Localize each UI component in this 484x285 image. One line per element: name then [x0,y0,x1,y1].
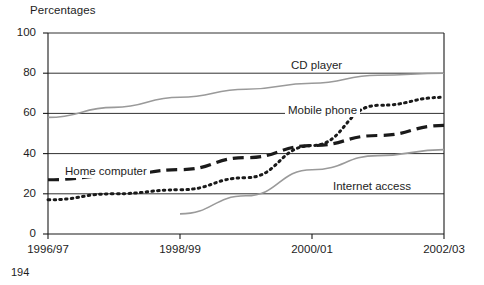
y-tick-label: 0 [8,227,36,239]
series-label-mobile-phone: Mobile phone [285,104,360,117]
y-tick-label: 80 [8,66,36,78]
x-tick-label: 1996/97 [27,243,69,255]
series-label-internet-access: Internet access [330,180,414,193]
page-number: 194 [11,266,29,278]
y-tick-label: 60 [8,106,36,118]
chart-axes [48,33,444,234]
y-tick-label: 40 [8,147,36,159]
chart-canvas [0,0,484,285]
series-label-cd-player: CD player [288,59,345,72]
x-tick-label: 2002/03 [423,243,465,255]
chart-figure: Percentages 020406080100 1996/971998/992… [0,0,484,285]
y-tick-label: 100 [8,26,36,38]
x-tick-label: 1998/99 [159,243,201,255]
series-label-home-computer: Home computer [62,165,150,178]
y-tick-label: 20 [8,187,36,199]
x-tick-label: 2000/01 [291,243,333,255]
